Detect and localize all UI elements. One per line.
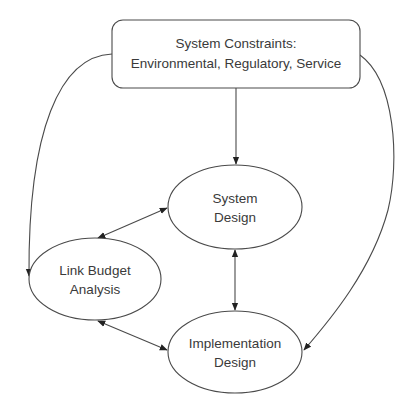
node-label-line2: Analysis — [70, 282, 121, 297]
node-system-constraints: System Constraints: Environmental, Regul… — [112, 20, 360, 88]
node-label-line1: System Constraints: — [176, 36, 297, 51]
diagram-canvas: System Constraints: Environmental, Regul… — [0, 0, 410, 411]
node-label-line2: Environmental, Regulatory, Service — [131, 56, 342, 71]
node-implementation-design: Implementation Design — [168, 311, 302, 393]
edge-link-budget-implementation-design — [98, 321, 167, 350]
node-label-line2: Design — [214, 210, 256, 225]
node-label-line2: Design — [214, 355, 256, 370]
node-label-line1: System — [212, 191, 257, 206]
node-label-line1: Implementation — [189, 336, 281, 351]
edge-link-budget-system-design — [98, 208, 167, 238]
node-link-budget-analysis: Link Budget Analysis — [29, 238, 161, 320]
node-system-design: System Design — [168, 165, 302, 249]
edge-constraints-to-implementation-design — [304, 55, 394, 350]
node-label-line1: Link Budget — [59, 263, 131, 278]
